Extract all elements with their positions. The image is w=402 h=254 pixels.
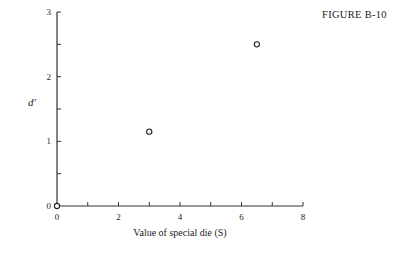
data-points — [54, 42, 259, 209]
x-tick-label: 4 — [178, 212, 183, 222]
axes — [57, 12, 303, 206]
data-point-marker — [54, 203, 59, 208]
x-axis-label: Value of special die (S) — [133, 227, 226, 239]
data-point-marker — [254, 42, 259, 47]
data-point-marker — [147, 129, 152, 134]
ticks — [57, 12, 303, 206]
y-tick-label: 2 — [47, 72, 52, 82]
scatter-chart: 024680123 Value of special die (S) d' — [0, 0, 402, 254]
x-tick-label: 6 — [239, 212, 244, 222]
tick-labels: 024680123 — [47, 7, 306, 222]
y-tick-label: 3 — [47, 7, 52, 17]
y-tick-label: 0 — [47, 201, 52, 211]
y-tick-label: 1 — [47, 136, 52, 146]
x-tick-label: 0 — [55, 212, 60, 222]
x-tick-label: 8 — [301, 212, 306, 222]
y-axis-label: d' — [28, 96, 37, 108]
x-tick-label: 2 — [116, 212, 121, 222]
